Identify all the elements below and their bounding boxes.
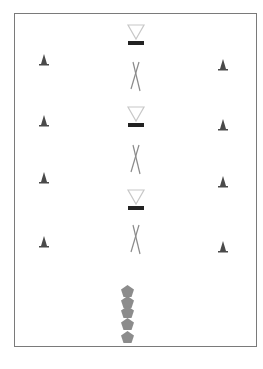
cone-icon [218, 241, 228, 253]
cone-icon [218, 59, 228, 71]
cone-icon [39, 236, 49, 248]
crossed-poles-icon [129, 145, 143, 175]
player-icon [121, 331, 134, 343]
cone-icon [218, 119, 228, 131]
goal-marker-icon [127, 189, 145, 211]
goal-marker-icon [127, 106, 145, 128]
cone-icon [218, 176, 228, 188]
cone-icon [39, 54, 49, 66]
cone-icon [39, 115, 49, 127]
crossed-poles-icon [129, 225, 143, 255]
player-icon [121, 306, 134, 318]
player-icon [121, 318, 134, 330]
cone-icon [39, 172, 49, 184]
crossed-poles-icon [129, 62, 143, 92]
goal-marker-icon [127, 24, 145, 46]
